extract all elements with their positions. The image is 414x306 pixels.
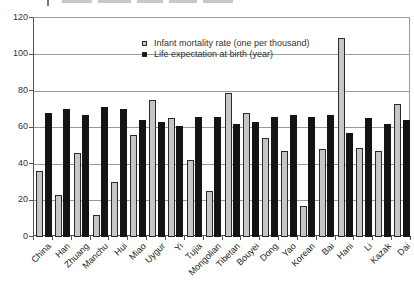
x-tick-mark — [335, 236, 336, 240]
y-tick-mark — [29, 90, 33, 91]
y-tick-mark — [29, 17, 33, 18]
bar-infant-mortality — [168, 118, 175, 237]
x-tick-mark — [108, 236, 109, 240]
x-tick-mark — [278, 236, 279, 240]
bar-infant-mortality — [225, 93, 232, 237]
y-tick-mark — [29, 127, 33, 128]
legend-item-life-expectation: Life expectation at birth (year) — [142, 49, 310, 60]
y-tick-mark — [29, 163, 33, 164]
y-tick-label: 80 — [0, 85, 28, 96]
bar-infant-mortality — [130, 135, 137, 237]
bar-life-expectation — [365, 118, 372, 237]
bar-infant-mortality — [36, 171, 43, 237]
gridline — [34, 127, 409, 128]
y-tick-label: 0 — [0, 231, 28, 242]
bar-life-expectation — [176, 126, 183, 237]
bar-infant-mortality — [55, 195, 62, 237]
cropped-title-fragment — [203, 0, 233, 3]
bar-infant-mortality — [375, 151, 382, 237]
bar-infant-mortality — [243, 113, 250, 237]
bar-infant-mortality — [262, 138, 269, 237]
bar-infant-mortality — [394, 104, 401, 237]
x-tick-mark — [372, 236, 373, 240]
bar-life-expectation — [158, 122, 165, 237]
bar-infant-mortality — [281, 151, 288, 237]
bar-infant-mortality — [93, 215, 100, 237]
bar-infant-mortality — [149, 100, 156, 237]
y-tick-label: 100 — [0, 48, 28, 59]
bar-infant-mortality — [319, 149, 326, 237]
x-tick-mark — [353, 236, 354, 240]
legend-label: Life expectation at birth (year) — [154, 49, 273, 60]
bar-infant-mortality — [338, 38, 345, 237]
y-tick-label: 20 — [0, 194, 28, 205]
y-tick-label: 40 — [0, 158, 28, 169]
x-tick-mark — [316, 236, 317, 240]
bar-infant-mortality — [300, 206, 307, 237]
x-tick-mark — [146, 236, 147, 240]
x-tick-mark — [203, 236, 204, 240]
bar-life-expectation — [384, 124, 391, 237]
y-tick-label: 120 — [0, 12, 28, 23]
x-tick-mark — [33, 236, 34, 240]
x-tick-mark — [222, 236, 223, 240]
x-tick-mark — [391, 236, 392, 240]
legend-item-infant-mortality: Infant mortality rate (one per thousand) — [142, 38, 310, 49]
cropped-title-fragment — [98, 0, 131, 3]
gridline — [34, 91, 409, 92]
legend-marker-gray-square-icon — [142, 41, 147, 46]
bar-infant-mortality — [187, 160, 194, 237]
x-tick-mark — [165, 236, 166, 240]
bar-infant-mortality — [206, 191, 213, 237]
cropped-title-fragment — [169, 0, 197, 3]
bar-chart: Infant mortality rate (one per thousand)… — [0, 0, 414, 306]
cropped-title-fragment — [47, 0, 49, 6]
x-tick-mark — [240, 236, 241, 240]
bar-life-expectation — [233, 124, 240, 237]
bar-life-expectation — [271, 117, 278, 237]
bar-life-expectation — [195, 117, 202, 237]
bar-infant-mortality — [111, 182, 118, 237]
bar-life-expectation — [308, 117, 315, 237]
bar-life-expectation — [82, 115, 89, 237]
bar-life-expectation — [327, 115, 334, 237]
bar-infant-mortality — [74, 153, 81, 237]
x-tick-mark — [410, 236, 411, 240]
cropped-title-fragment — [62, 0, 92, 3]
bar-life-expectation — [120, 109, 127, 237]
legend: Infant mortality rate (one per thousand)… — [142, 38, 310, 60]
bar-life-expectation — [139, 120, 146, 237]
bar-life-expectation — [214, 117, 221, 237]
bar-life-expectation — [403, 120, 410, 237]
bar-infant-mortality — [356, 148, 363, 237]
bar-life-expectation — [290, 115, 297, 237]
x-tick-mark — [184, 236, 185, 240]
bar-life-expectation — [63, 109, 70, 237]
y-tick-label: 60 — [0, 121, 28, 132]
bar-life-expectation — [346, 133, 353, 237]
bar-life-expectation — [252, 122, 259, 237]
x-tick-mark — [259, 236, 260, 240]
y-tick-mark — [29, 54, 33, 55]
cropped-title-fragment — [137, 0, 163, 3]
x-tick-mark — [90, 236, 91, 240]
bar-life-expectation — [45, 113, 52, 237]
x-tick-mark — [71, 236, 72, 240]
x-tick-mark — [297, 236, 298, 240]
x-tick-mark — [52, 236, 53, 240]
legend-label: Infant mortality rate (one per thousand) — [154, 38, 310, 49]
legend-marker-black-square-icon — [142, 52, 147, 57]
x-tick-mark — [127, 236, 128, 240]
bar-life-expectation — [101, 107, 108, 237]
y-tick-mark — [29, 200, 33, 201]
